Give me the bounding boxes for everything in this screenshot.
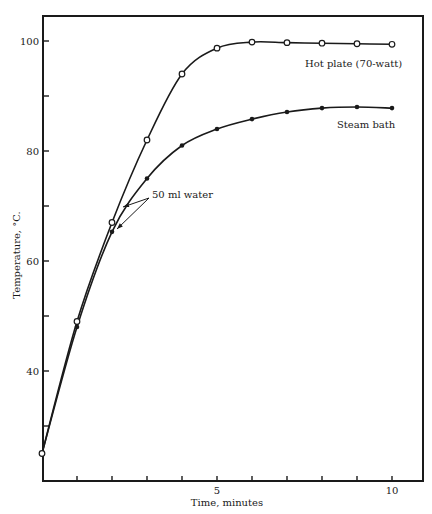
hot-plate-line — [42, 42, 392, 454]
x-axis-label: Time, minutes — [191, 497, 263, 508]
hot-plate-marker — [319, 40, 325, 46]
steam-bath-marker — [390, 106, 395, 111]
hot-plate-marker — [249, 39, 255, 45]
data-markers — [39, 39, 395, 456]
y-tick-label: 60 — [26, 256, 39, 267]
steam-bath-marker — [250, 117, 255, 122]
x-tick-label: 10 — [386, 485, 399, 496]
hot-plate-marker — [354, 41, 360, 47]
steam-bath-marker — [285, 110, 290, 115]
axis-ticks: 406080100510 — [20, 36, 398, 497]
hot-plate-marker — [389, 42, 395, 48]
x-tick-label: 5 — [214, 485, 220, 496]
y-tick-label: 40 — [26, 366, 39, 377]
steam-bath-line — [42, 107, 392, 454]
series-label-hot-plate: Hot plate (70-watt) — [305, 58, 402, 69]
steam-bath-marker — [215, 127, 220, 132]
hot-plate-marker — [39, 451, 45, 457]
steam-bath-marker — [75, 325, 80, 330]
annotation-label: 50 ml water — [152, 189, 213, 200]
steam-bath-marker — [145, 176, 150, 181]
series-lines — [42, 42, 392, 454]
steam-bath-marker — [320, 106, 325, 111]
steam-bath-marker — [180, 143, 185, 148]
steam-bath-marker — [355, 105, 360, 110]
y-tick-label: 100 — [20, 36, 39, 47]
plot-border — [43, 16, 423, 481]
series-label-steam-bath: Steam bath — [337, 119, 396, 130]
temperature-vs-time-chart: 406080100510 Hot plate (70-watt) Steam b… — [0, 0, 432, 514]
hot-plate-marker — [179, 71, 185, 77]
hot-plate-marker — [144, 137, 150, 143]
y-tick-label: 80 — [26, 146, 39, 157]
hot-plate-marker — [109, 220, 115, 226]
y-axis-label: Temperature, °C. — [11, 211, 22, 298]
hot-plate-marker — [284, 40, 290, 46]
steam-bath-marker — [110, 230, 115, 235]
hot-plate-marker — [74, 319, 80, 325]
plot-frame — [43, 16, 423, 481]
hot-plate-marker — [214, 45, 220, 51]
